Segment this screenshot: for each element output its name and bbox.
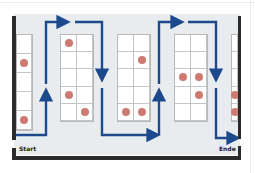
end-label: Ende [219,145,236,152]
picking-route-path [0,0,255,173]
wall-bottom [12,156,241,160]
start-label: Start [19,145,36,152]
wall-right-lower [238,146,241,160]
wall-right [238,16,241,139]
wall-left [12,16,16,140]
